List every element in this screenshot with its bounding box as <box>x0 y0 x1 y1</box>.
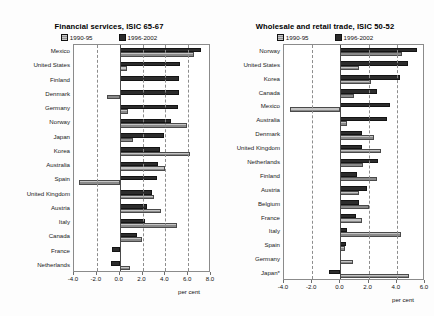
legend-label-1996-2002: 1996-2002 <box>344 34 374 41</box>
bar-1990-95 <box>120 223 177 227</box>
category-label: Canada <box>49 233 70 239</box>
bar-row <box>284 59 423 73</box>
bar-row <box>284 267 423 281</box>
bar-1990-95 <box>340 52 402 56</box>
bar-1996-2002 <box>120 76 179 80</box>
bar-1990-95 <box>120 52 194 56</box>
bar-1996-2002 <box>340 61 408 65</box>
category-label: Austria <box>51 205 70 211</box>
bar-row <box>284 253 423 267</box>
bar-1990-95 <box>340 121 347 125</box>
bar-1990-95 <box>340 66 358 70</box>
bar-row <box>284 212 423 226</box>
gridline <box>312 45 313 279</box>
gridline <box>143 45 144 271</box>
category-label: Italy <box>269 228 280 234</box>
category-label: Italy <box>59 219 70 225</box>
bar-1990-95 <box>120 138 134 142</box>
legend-swatch-1990-95 <box>277 34 284 41</box>
bar-1996-2002 <box>111 261 120 265</box>
bar-1990-95 <box>79 180 120 184</box>
legend-label-1990-95: 1990-95 <box>286 34 309 41</box>
gridline <box>397 45 398 279</box>
bar-row <box>284 87 423 101</box>
tick-label: -4.0 <box>278 284 289 290</box>
bar-row <box>284 73 423 87</box>
legend-swatch-1996-2002 <box>335 34 342 41</box>
category-label: Korea <box>54 148 70 154</box>
tick-label: -4.0 <box>68 276 79 282</box>
bar-1996-2002 <box>340 186 367 190</box>
tick-label: 6.0 <box>420 284 428 290</box>
chart-panel-wholesale-retail: Wholesale and retail trade, ISIC 50-52 1… <box>216 0 434 316</box>
tick-label: 8.0 <box>206 276 214 282</box>
axis-unit-left: per cent <box>178 288 200 295</box>
gridline <box>188 45 189 271</box>
bar-1990-95 <box>290 107 341 111</box>
category-label: United States <box>243 62 280 68</box>
bar-1996-2002 <box>120 62 181 66</box>
gridline <box>97 45 98 271</box>
category-label: France <box>51 248 70 254</box>
category-label: Finland <box>260 173 280 179</box>
category-label: Norway <box>259 48 280 54</box>
bar-1990-95 <box>340 218 361 222</box>
chart-title-right: Wholesale and retail trade, ISIC 50-52 <box>216 22 434 31</box>
bar-1996-2002 <box>340 159 378 163</box>
bar-1996-2002 <box>120 176 158 180</box>
legend-right: 1990-95 1996-2002 <box>216 34 434 41</box>
tick-label: 2.0 <box>137 276 145 282</box>
bar-1996-2002 <box>340 75 399 79</box>
legend-swatch-1990-95 <box>61 34 68 41</box>
legend-left: 1990-95 1996-2002 <box>0 34 218 41</box>
category-label: Germany <box>45 105 70 111</box>
legend-label-1990-95: 1990-95 <box>70 34 93 41</box>
bar-1990-95 <box>120 66 127 70</box>
bar-row <box>284 170 423 184</box>
bar-1996-2002 <box>340 48 416 52</box>
category-label: Germany <box>255 256 280 262</box>
chart-panel-financial-services: Financial services, ISIC 65-67 1990-95 1… <box>0 0 218 316</box>
gridline <box>165 45 166 271</box>
legend-label-1996-2002: 1996-2002 <box>128 34 158 41</box>
bar-1990-95 <box>340 149 381 153</box>
bar-1996-2002 <box>340 89 377 93</box>
bar-row <box>284 184 423 198</box>
bar-1990-95 <box>340 94 354 98</box>
value-axis-left: -4.0-2.00.02.04.06.08.0 <box>73 272 210 288</box>
bar-1990-95 <box>340 260 353 264</box>
bar-1990-95 <box>340 205 368 209</box>
bar-1996-2002 <box>120 219 145 223</box>
bar-1996-2002 <box>340 103 389 107</box>
bar-1990-95 <box>120 109 128 113</box>
bar-1996-2002 <box>340 214 356 218</box>
bar-1990-95 <box>120 266 130 270</box>
axis-unit-right: per cent <box>392 296 414 303</box>
category-label: Mexico <box>261 103 280 109</box>
plot-area-left <box>73 44 210 272</box>
category-label: Netherlands <box>247 159 280 165</box>
plot-area-right <box>283 44 424 280</box>
figure-root: Financial services, ISIC 65-67 1990-95 1… <box>0 0 434 316</box>
bar-1996-2002 <box>340 131 361 135</box>
bar-1990-95 <box>120 237 143 241</box>
category-label: United Kingdom <box>27 191 70 197</box>
bar-1990-95 <box>340 177 377 181</box>
bar-1996-2002 <box>120 105 178 109</box>
bar-row <box>284 45 423 59</box>
category-label: Finland <box>50 77 70 83</box>
tick-label: -2.0 <box>306 284 317 290</box>
bar-1996-2002 <box>120 233 137 237</box>
bar-1990-95 <box>120 123 187 127</box>
category-label: Belgium <box>258 201 280 207</box>
bar-1990-95 <box>340 232 401 236</box>
category-label: Australia <box>46 162 70 168</box>
bar-1990-95 <box>340 80 371 84</box>
legend-item-1990-95: 1990-95 <box>61 34 93 41</box>
category-label: United Kingdom <box>237 145 280 151</box>
tick-label: 4.0 <box>160 276 168 282</box>
bar-row <box>284 128 423 142</box>
bar-1996-2002 <box>340 228 347 232</box>
category-label: Austria <box>261 187 280 193</box>
bar-row <box>284 198 423 212</box>
